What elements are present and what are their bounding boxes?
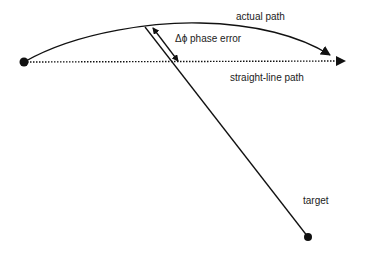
target-point	[304, 233, 312, 241]
target-label: target	[303, 195, 329, 207]
actual-path-label: actual path	[236, 11, 285, 23]
target-line	[145, 27, 308, 237]
straight-line-path-label: straight-line path	[230, 72, 304, 84]
phase-error-label: Δϕ phase error	[175, 33, 241, 45]
straight-line-path	[24, 61, 345, 62]
origin-point	[20, 58, 29, 67]
